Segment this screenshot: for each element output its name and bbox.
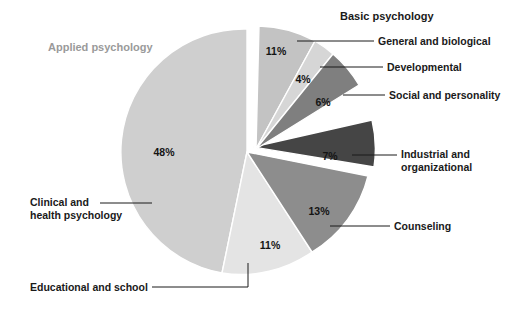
pie-value-developmental: 4%: [295, 73, 311, 85]
pie-label-industrial-line-1: Industrial and: [401, 148, 472, 161]
pie-value-social-and-personality: 6%: [315, 96, 331, 108]
pie-label-clinical-and-health-psychology: Clinical and health psychology: [30, 196, 122, 222]
pie-label-social-and-personality: Social and personality: [389, 89, 500, 102]
pie-label-developmental: Developmental: [387, 61, 462, 74]
pie-label-educational-and-school: Educational and school: [30, 281, 148, 294]
pie-label-clinical-line-2: health psychology: [30, 209, 122, 222]
group-title-applied-psychology: Applied psychology: [48, 41, 153, 53]
pie-label-counseling: Counseling: [394, 220, 451, 233]
pie-label-general-and-biological: General and biological: [378, 35, 491, 48]
pie-label-clinical-line-1: Clinical and: [30, 196, 122, 209]
pie-value-educational-and-school: 11%: [260, 239, 281, 251]
pie-chart-figure: 11% 4% 6% 7% 13% 11% 48% Basic psycholog…: [0, 0, 526, 318]
pie-value-counseling: 13%: [308, 205, 330, 217]
pie-value-clinical-and-health-psychology: 48%: [153, 146, 175, 158]
pie-value-general-and-biological: 11%: [266, 45, 287, 57]
pie-label-industrial-and-organizational: Industrial and organizational: [401, 148, 472, 174]
pie-label-industrial-line-2: organizational: [401, 161, 472, 174]
pie-slice-clinical-and-health-psychology[interactable]: [121, 29, 247, 273]
group-title-basic-psychology: Basic psychology: [340, 10, 434, 22]
pie-value-industrial-and-organizational: 7%: [322, 150, 338, 162]
